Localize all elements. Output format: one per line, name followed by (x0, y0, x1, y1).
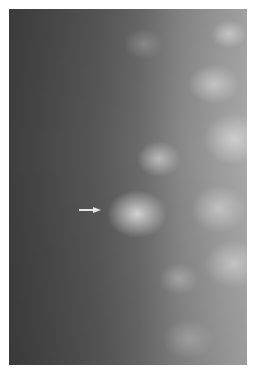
mammogram-image (9, 9, 247, 365)
arrow-annotation-icon (79, 207, 101, 213)
